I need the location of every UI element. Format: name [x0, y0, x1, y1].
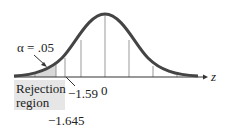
axis-arrow-icon	[203, 75, 208, 80]
rejection-label-line1: Rejection	[16, 82, 66, 96]
z-axis-label: z	[211, 70, 216, 83]
test-statistic-label: −1.59	[68, 87, 98, 100]
gridlines	[35, 14, 177, 77]
critical-value-label: −1.645	[48, 114, 85, 127]
normal-curve-chart	[0, 0, 227, 134]
zero-tick-label: 0	[101, 84, 108, 97]
rejection-label-line2: region	[16, 96, 49, 110]
alpha-label: α = .05	[17, 41, 54, 54]
stat-pointer	[66, 77, 75, 86]
